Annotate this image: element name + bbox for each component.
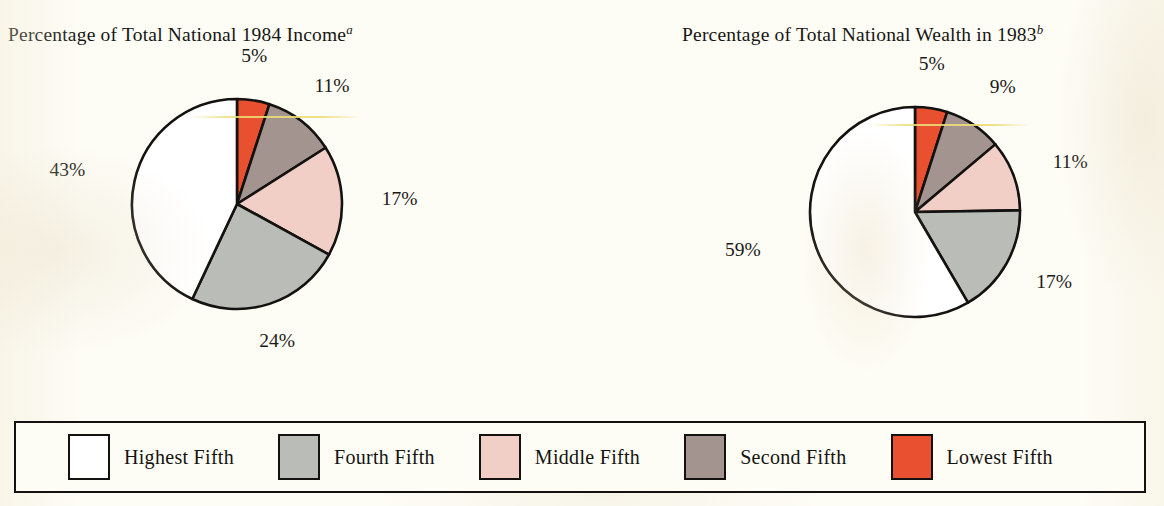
- legend-color-swatch: [278, 434, 320, 480]
- legend-color-swatch: [891, 434, 933, 480]
- pie-slice-percent-label: 17%: [382, 188, 418, 210]
- pie-slice-percent-label: 59%: [725, 239, 761, 261]
- pie-chart-wealth: Percentage of Total National Wealth in 1…: [582, 0, 1164, 400]
- legend-color-swatch: [479, 434, 521, 480]
- legend: Highest FifthFourth FifthMiddle FifthSec…: [14, 421, 1146, 493]
- legend-item: Second Fifth: [684, 434, 846, 480]
- pie-slice-percent-label: 11%: [315, 75, 350, 97]
- legend-items-container: Highest FifthFourth FifthMiddle FifthSec…: [16, 434, 1144, 480]
- pie-slice-percent-label: 5%: [919, 53, 945, 75]
- pie-slice-percent-label: 9%: [990, 76, 1016, 98]
- legend-item: Middle Fifth: [479, 434, 640, 480]
- pie-chart-income: Percentage of Total National 1984 Income…: [0, 0, 582, 400]
- legend-item: Fourth Fifth: [278, 434, 435, 480]
- legend-item-label: Middle Fifth: [535, 446, 640, 469]
- legend-color-swatch: [684, 434, 726, 480]
- legend-item-label: Lowest Fifth: [947, 446, 1053, 469]
- pie-slice-percent-label: 5%: [241, 45, 267, 67]
- legend-item-label: Highest Fifth: [124, 446, 234, 469]
- pie-slice-percent-label: 17%: [1036, 271, 1072, 293]
- legend-item-label: Second Fifth: [740, 446, 846, 469]
- pie-slice-percent-label: 43%: [49, 159, 85, 181]
- pie-slice-percent-label: 24%: [259, 330, 295, 352]
- legend-item: Lowest Fifth: [891, 434, 1053, 480]
- legend-item-label: Fourth Fifth: [334, 446, 435, 469]
- pie-slice-percent-label: 11%: [1053, 151, 1088, 173]
- legend-color-swatch: [68, 434, 110, 480]
- legend-item: Highest Fifth: [68, 434, 234, 480]
- pie-svg-wealth: [582, 0, 1164, 400]
